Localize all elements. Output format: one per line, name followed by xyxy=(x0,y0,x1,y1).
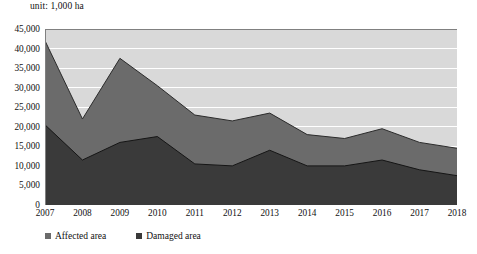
x-axis-tick-label: 2008 xyxy=(73,208,92,218)
y-axis-tick-label: 25,000 xyxy=(14,102,40,112)
y-axis-tick-label: 35,000 xyxy=(14,63,40,73)
plot-area xyxy=(45,29,457,205)
x-axis-tick-label: 2011 xyxy=(186,208,204,218)
area-chart: unit: 1,000 ha 45,00040,00035,00030,0002… xyxy=(0,0,477,254)
x-axis-tick-label: 2016 xyxy=(373,208,392,218)
y-axis-tick-label: 40,000 xyxy=(14,44,40,54)
x-axis-tick-label: 2015 xyxy=(335,208,354,218)
x-axis-tick-label: 2018 xyxy=(448,208,467,218)
x-axis-tick-label: 2012 xyxy=(223,208,242,218)
x-axis: 2007200820092010201120122013201420152016… xyxy=(45,206,457,222)
legend-item[interactable]: Damaged area xyxy=(136,231,201,241)
y-axis-tick-label: 15,000 xyxy=(14,141,40,151)
x-axis-tick-label: 2010 xyxy=(148,208,167,218)
y-axis-tick-label: 30,000 xyxy=(14,83,40,93)
square-marker-icon xyxy=(136,233,142,239)
x-axis-tick-label: 2009 xyxy=(111,208,130,218)
y-axis: 45,00040,00035,00030,00025,00020,00015,0… xyxy=(0,29,43,205)
x-axis-tick-label: 2013 xyxy=(260,208,279,218)
legend-item-label: Affected area xyxy=(55,231,106,241)
chart-legend: Affected areaDamaged area xyxy=(45,231,201,241)
x-axis-tick-label: 2014 xyxy=(298,208,317,218)
x-axis-tick-label: 2017 xyxy=(410,208,429,218)
legend-item[interactable]: Affected area xyxy=(45,231,106,241)
y-axis-tick-label: 45,000 xyxy=(14,24,40,34)
unit-label: unit: 1,000 ha xyxy=(30,1,84,11)
legend-item-label: Damaged area xyxy=(146,231,201,241)
y-axis-tick-label: 10,000 xyxy=(14,161,40,171)
y-axis-tick-label: 5,000 xyxy=(19,180,40,190)
square-marker-icon xyxy=(45,233,51,239)
plot-svg xyxy=(45,29,457,205)
x-axis-tick-label: 2007 xyxy=(36,208,55,218)
y-axis-tick-label: 20,000 xyxy=(14,122,40,132)
